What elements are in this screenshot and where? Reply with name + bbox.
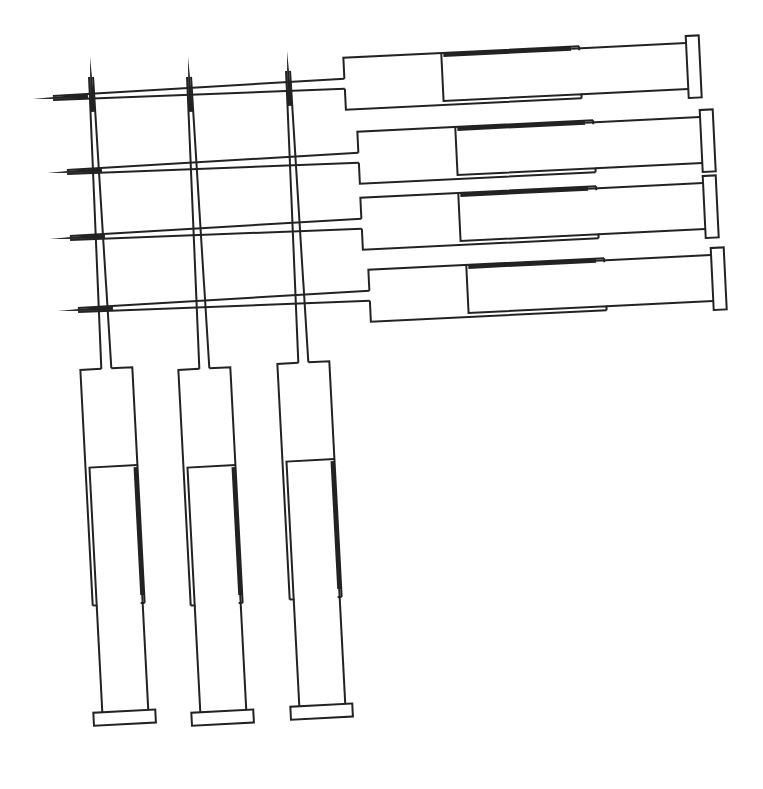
horizontal-syringe-4 [56, 247, 726, 342]
vertical-syringe-1 [59, 55, 156, 725]
horizontal-syringe-1 [31, 35, 701, 130]
vertical-syringe-3 [256, 49, 353, 719]
horizontal-syringe-2 [45, 109, 715, 204]
vertical-syringe-2 [157, 55, 254, 725]
syringes-drawing [0, 0, 763, 789]
horizontal-syringe-3 [48, 175, 718, 270]
